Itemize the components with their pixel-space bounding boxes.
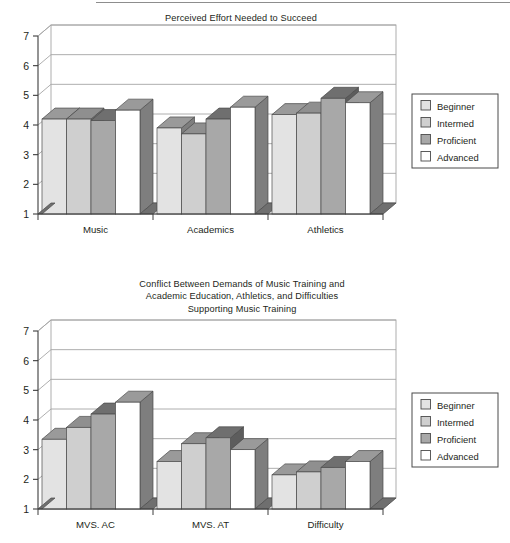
bar-face (231, 450, 256, 509)
bar-chart-top: 1234567MusicAcademicsAthleticsBeginnerIn… (0, 24, 510, 259)
bar-face (182, 134, 207, 214)
legend-swatch (421, 135, 431, 145)
legend-item: Advanced (421, 152, 479, 163)
bar-face (272, 115, 297, 214)
legend-item: Intermed (421, 417, 474, 428)
legend-swatch (421, 101, 431, 111)
x-category-label: Difficulty (307, 519, 343, 530)
legend-label: Beginner (437, 400, 475, 411)
bar-side (370, 92, 383, 214)
y-tick-label: 6 (23, 60, 29, 72)
y-tick-label: 6 (23, 355, 29, 367)
x-category-label: Music (83, 224, 108, 235)
bar-face (272, 475, 297, 509)
bar-face (206, 438, 231, 509)
y-tick-label: 4 (23, 119, 29, 131)
bar (346, 92, 384, 214)
bar-face (116, 111, 141, 215)
x-category-label: Academics (187, 224, 234, 235)
bar-side (255, 97, 268, 215)
bar-side (140, 100, 153, 215)
legend-label: Beginner (437, 101, 475, 112)
legend-label: Intermed (437, 417, 474, 428)
bar-side (140, 391, 153, 509)
legend-swatch (421, 417, 431, 427)
bar-face (91, 414, 116, 509)
bar-face (346, 103, 371, 214)
legend-label: Intermed (437, 118, 474, 129)
bar-face (157, 462, 182, 509)
legend-item: Beginner (421, 101, 475, 112)
legend-swatch (421, 434, 431, 444)
legend-label: Advanced (437, 152, 479, 163)
bar-face (157, 128, 182, 214)
bar-face (116, 402, 141, 509)
chart-title-bottom-line-2: Academic Education, Athletics, and Diffi… (0, 290, 510, 302)
legend-label: Proficient (437, 434, 476, 445)
y-tick-label: 7 (23, 325, 29, 337)
bar-face (182, 444, 207, 509)
legend-item: Proficient (421, 434, 476, 445)
figure-conflict-demands: Conflict Between Demands of Music Traini… (0, 262, 510, 543)
chart-legend: BeginnerIntermedProficientAdvanced (412, 94, 498, 168)
y-tick-label: 4 (23, 414, 29, 426)
bar (116, 391, 154, 509)
bar-face (67, 119, 92, 214)
bar-face (67, 428, 92, 510)
bar (346, 451, 384, 509)
y-tick-label: 5 (23, 385, 29, 397)
y-tick-label: 2 (23, 474, 29, 486)
legend-label: Proficient (437, 135, 476, 146)
chart-title-bottom-line-1: Conflict Between Demands of Music Traini… (0, 278, 510, 290)
legend-swatch (421, 152, 431, 162)
bar-chart-bottom: 1234567MVS. ACMVS. ATDifficultyBeginnerI… (0, 315, 510, 543)
bar-face (91, 121, 116, 214)
bar-face (42, 119, 67, 214)
x-category-label: MVS. AT (192, 519, 229, 530)
legend-swatch (421, 451, 431, 461)
y-tick-label: 3 (23, 444, 29, 456)
bar (231, 439, 269, 509)
legend-label: Advanced (437, 451, 479, 462)
bar-side (255, 439, 268, 509)
y-tick-label: 1 (23, 503, 29, 515)
x-axis: MVS. ACMVS. ATDifficulty (38, 509, 383, 530)
legend-item: Intermed (421, 118, 474, 129)
y-axis: 1234567 (23, 30, 38, 220)
bar-face (297, 472, 322, 509)
legend-item: Proficient (421, 135, 476, 146)
chart-title-bottom: Conflict Between Demands of Music Traini… (0, 262, 510, 315)
x-category-label: Athletics (307, 224, 343, 235)
legend-swatch (421, 400, 431, 410)
bar (116, 100, 154, 215)
y-tick-label: 1 (23, 208, 29, 220)
legend-item: Advanced (421, 451, 479, 462)
y-tick-label: 5 (23, 90, 29, 102)
bar-face (321, 468, 346, 510)
figure-perceived-effort: Perceived Effort Needed to Succeed 12345… (0, 0, 510, 262)
y-tick-label: 2 (23, 179, 29, 191)
bar-face (206, 119, 231, 214)
legend-item: Beginner (421, 400, 475, 411)
bar (231, 97, 269, 215)
y-axis: 1234567 (23, 325, 38, 515)
legend-swatch (421, 118, 431, 128)
page-root: Perceived Effort Needed to Succeed 12345… (0, 0, 510, 543)
bar-face (231, 108, 256, 215)
plot-area-top: 1234567MusicAcademicsAthleticsBeginnerIn… (0, 24, 510, 259)
chart-title-top-line-1: Perceived Effort Needed to Succeed (0, 12, 510, 24)
chart-legend: BeginnerIntermedProficientAdvanced (412, 393, 498, 467)
plot-area-bottom: 1234567MVS. ACMVS. ATDifficultyBeginnerI… (0, 315, 510, 543)
bar-face (346, 462, 371, 509)
bar-face (297, 114, 322, 215)
chart-title-top: Perceived Effort Needed to Succeed (0, 0, 510, 24)
x-category-label: MVS. AC (76, 519, 115, 530)
chart-title-bottom-line-3: Supporting Music Training (0, 303, 510, 315)
y-tick-label: 3 (23, 149, 29, 161)
bar-face (321, 99, 346, 215)
x-axis: MusicAcademicsAthletics (38, 214, 383, 235)
y-tick-label: 7 (23, 30, 29, 42)
